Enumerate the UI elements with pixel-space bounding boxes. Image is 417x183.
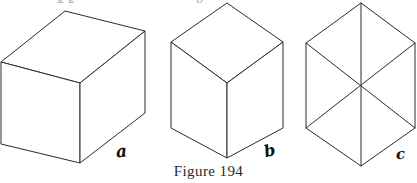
panel-b-cube — [171, 3, 283, 158]
figure-caption: Figure 194 — [0, 163, 417, 180]
panel-c-hexagon — [306, 3, 415, 166]
panel-label-c: c — [395, 147, 405, 163]
figure-illustration — [0, 0, 417, 183]
panel-label-a: a — [115, 142, 128, 160]
figure-page: g g p a b c Figure 194 — [0, 0, 417, 183]
